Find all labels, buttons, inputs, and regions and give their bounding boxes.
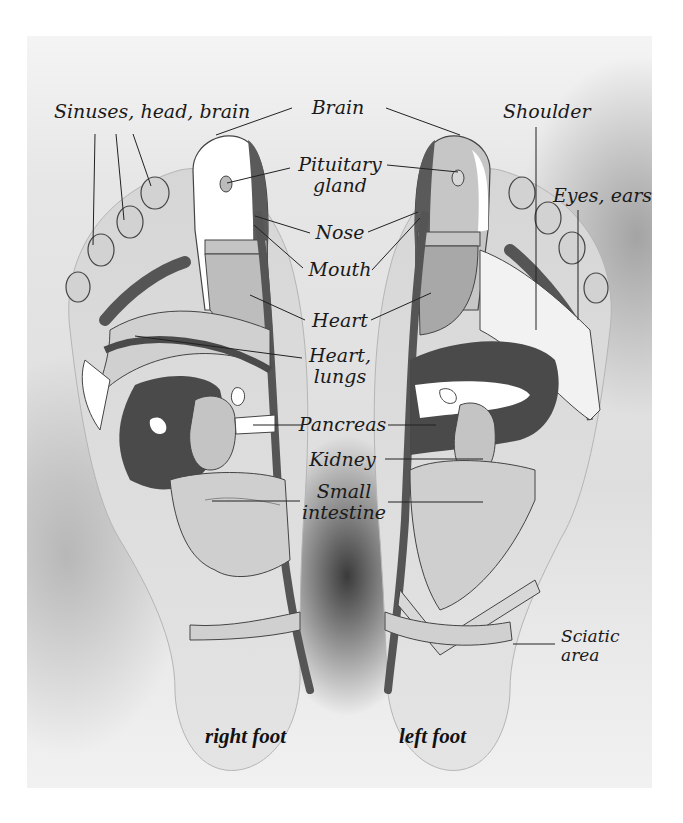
feet-illustration	[0, 0, 683, 823]
label-sciatic-line1: Sciatic	[561, 627, 620, 646]
left-foot	[374, 136, 611, 771]
reflexology-diagram: Sinuses, head, brain Brain Shoulder Pitu…	[0, 0, 683, 823]
label-pituitary-line2: gland	[290, 175, 390, 196]
caption-right-foot: right foot	[205, 724, 286, 749]
label-sciatic-line2: area	[561, 646, 620, 665]
label-pancreas: Pancreas	[295, 414, 390, 435]
caption-left-foot: left foot	[399, 724, 466, 749]
label-shoulder: Shoulder	[503, 101, 591, 122]
label-nose: Nose	[305, 222, 375, 243]
label-small-intestine-line2: intestine	[300, 502, 388, 523]
label-small-intestine-line1: Small	[300, 481, 388, 502]
label-small-intestine: Small intestine	[300, 481, 388, 523]
label-kidney: Kidney	[305, 449, 380, 470]
label-sinuses-head-brain: Sinuses, head, brain	[54, 101, 250, 122]
right-foot	[66, 136, 310, 771]
label-eyes-ears: Eyes, ears	[553, 185, 652, 206]
label-mouth: Mouth	[300, 259, 380, 280]
label-brain: Brain	[298, 97, 378, 118]
label-heart-lungs-line1: Heart,	[300, 345, 380, 366]
label-sciatic-area: Sciatic area	[561, 627, 620, 665]
label-heart: Heart	[305, 310, 375, 331]
label-pituitary-line1: Pituitary	[290, 154, 390, 175]
label-heart-lungs-line2: lungs	[300, 366, 380, 387]
label-pituitary-gland: Pituitary gland	[290, 154, 390, 196]
label-heart-lungs: Heart, lungs	[300, 345, 380, 387]
